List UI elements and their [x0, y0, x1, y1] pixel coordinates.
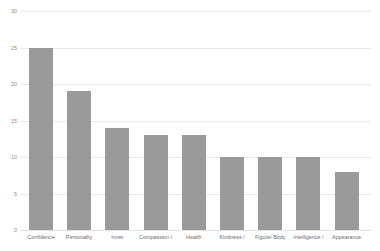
bar	[258, 157, 282, 230]
gridline	[20, 48, 371, 49]
bar	[29, 48, 53, 231]
bar	[67, 91, 91, 230]
bar-chart: 302520151050 ConfidencePersonalityInnerC…	[0, 0, 380, 251]
bar	[182, 135, 206, 230]
y-axis-tick-label: 20	[1, 81, 17, 87]
x-axis-tick-label: Appearance	[324, 234, 370, 241]
plot-area	[20, 11, 371, 230]
y-axis-tick-label: 30	[1, 8, 17, 14]
bar	[105, 128, 129, 230]
chart-title	[0, 0, 380, 4]
bar	[220, 157, 244, 230]
y-axis-tick-label: 5	[1, 191, 17, 197]
y-axis-tick-label: 15	[1, 118, 17, 124]
bar	[296, 157, 320, 230]
y-axis-tick-label: 25	[1, 45, 17, 51]
gridline	[20, 11, 371, 12]
y-axis-tick-label: 0	[1, 227, 17, 233]
gridline	[20, 230, 371, 231]
gridline	[20, 84, 371, 85]
y-axis-tick-label: 10	[1, 154, 17, 160]
bar	[335, 172, 359, 230]
bar	[144, 135, 168, 230]
